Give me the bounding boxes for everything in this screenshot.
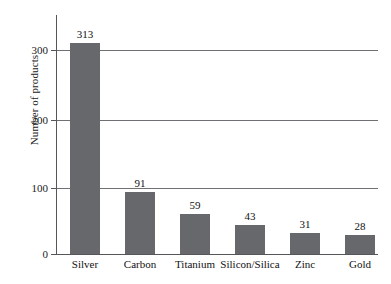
- bar-value-silver: 313: [61, 29, 109, 40]
- bar-value-gold: 28: [336, 221, 384, 232]
- tick-mark-300: [51, 50, 57, 51]
- bar-carbon[interactable]: [125, 192, 155, 254]
- tick-label-300: 300: [8, 45, 48, 56]
- x-axis-line: [56, 254, 378, 255]
- bar-value-titanium: 59: [171, 200, 219, 211]
- category-label-silicon-silica: Silicon/Silica: [219, 258, 281, 271]
- category-label-carbon: Carbon: [109, 258, 171, 271]
- tick-label-100: 100: [8, 183, 48, 194]
- category-label-titanium: Titanium: [164, 258, 226, 271]
- category-label-gold: Gold: [329, 258, 391, 271]
- y-axis-line: [56, 15, 57, 255]
- bar-zinc[interactable]: [290, 233, 320, 254]
- tick-mark-0: [51, 254, 57, 255]
- bar-chart: Number of products 300 200 100 0 313 Sil…: [0, 0, 391, 284]
- tick-label-200: 200: [8, 115, 48, 126]
- bar-gold[interactable]: [345, 235, 375, 254]
- tick-mark-200: [51, 120, 57, 121]
- plot-area: 300 200 100 0 313 Silver 91 Carbon 59 Ti…: [0, 0, 391, 284]
- bar-silver[interactable]: [70, 43, 100, 254]
- gridline-100: [56, 188, 378, 189]
- bar-value-carbon: 91: [116, 178, 164, 189]
- tick-label-0: 0: [8, 249, 48, 260]
- category-label-silver: Silver: [54, 258, 116, 271]
- bar-titanium[interactable]: [180, 214, 210, 254]
- gridline-300: [56, 50, 378, 51]
- bar-value-silicon-silica: 43: [226, 211, 274, 222]
- bar-silicon-silica[interactable]: [235, 225, 265, 254]
- tick-mark-100: [51, 188, 57, 189]
- gridline-200: [56, 120, 378, 121]
- category-label-zinc: Zinc: [274, 258, 336, 271]
- bar-value-zinc: 31: [281, 219, 329, 230]
